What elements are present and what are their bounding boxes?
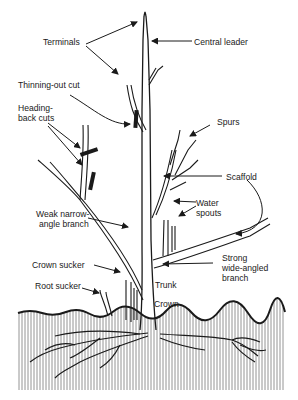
- pruning-cut-marks: [80, 110, 139, 190]
- label-strong-branch-line1: Strong: [222, 253, 247, 263]
- label-crown: Crown: [154, 299, 179, 309]
- thinning-out-cut-mark: [133, 110, 138, 128]
- label-water-spouts-line2: spouts: [196, 208, 221, 218]
- label-weak-branch-line1: Weak narrow-: [36, 209, 89, 219]
- label-thinning-out-cut: Thinning-out cut: [18, 80, 80, 90]
- label-terminals: Terminals: [43, 37, 80, 47]
- label-root-sucker: Root sucker: [35, 281, 81, 291]
- label-strong-branch-line3: branch: [222, 273, 248, 283]
- label-crown-sucker: Crown sucker: [32, 260, 85, 270]
- label-trunk: Trunk: [155, 280, 177, 290]
- label-heading-back-cuts-line1: Heading-: [18, 103, 53, 113]
- label-central-leader: Central leader: [194, 37, 248, 47]
- label-weak-branch-line2: angle branch: [39, 219, 89, 229]
- tree-illustration: [0, 0, 298, 400]
- label-scaffold: Scaffold: [226, 172, 257, 182]
- label-water-spouts-line1: Water: [196, 198, 219, 208]
- label-strong-branch-line2: wide-angled: [222, 263, 268, 273]
- heading-back-cut-mark-2: [88, 172, 96, 190]
- trunk: [140, 12, 156, 330]
- label-heading-back-cuts-line2: back cuts: [18, 113, 54, 123]
- tree-pruning-diagram: Terminals Central leader Thinning-out cu…: [0, 0, 298, 400]
- label-spurs: Spurs: [217, 117, 239, 127]
